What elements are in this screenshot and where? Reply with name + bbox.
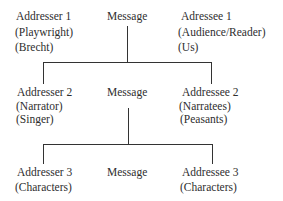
level1-addressee-role: (Audience/Reader) (178, 26, 265, 39)
level2-addresser-role: (Narrator) (16, 100, 63, 113)
level3-addresser-role: (Characters) (15, 181, 72, 194)
level2-addressee-role: (Narratees) (179, 100, 231, 113)
level1-addressee-title: Adressee 1 (181, 10, 232, 23)
level2-addresser-title: Addresser 2 (17, 86, 72, 99)
message-stem-2 (128, 108, 129, 144)
level1-addresser-role: (Playwright) (15, 26, 73, 39)
level3-addressee-title: Addressee 3 (182, 166, 239, 179)
branch-left-1 (43, 62, 44, 84)
communication-diagram: Addresser 1 (Playwright) (Brecht) Messag… (0, 0, 283, 201)
level2-addressee-title: Addressee 2 (182, 86, 239, 99)
level3-addresser-title: Addresser 3 (17, 166, 72, 179)
level3-message: Message (107, 166, 147, 179)
level1-addressee-example: (Us) (178, 41, 198, 54)
level2-addressee-example: (Peasants) (180, 113, 227, 126)
branch-right-2 (212, 144, 213, 164)
message-stem-1 (127, 26, 128, 62)
level2-message: Message (107, 86, 147, 99)
branch-left-2 (43, 144, 44, 164)
branch-right-1 (211, 62, 212, 84)
level2-addresser-example: (Singer) (16, 113, 54, 126)
level1-addresser-example: (Brecht) (15, 41, 53, 54)
level1-addresser-title: Addresser 1 (16, 10, 71, 23)
level3-addressee-role: (Characters) (180, 181, 237, 194)
branch-bar-2 (43, 144, 213, 145)
level1-message: Message (107, 10, 147, 23)
branch-bar-1 (43, 62, 212, 63)
